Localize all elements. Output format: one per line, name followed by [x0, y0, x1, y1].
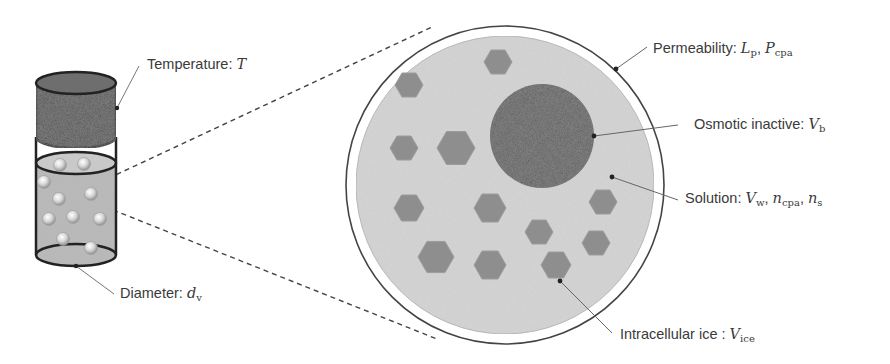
- permeability-label: Permeability: Lp, Pcpa: [653, 41, 793, 58]
- solution-sub-w: w: [756, 197, 765, 208]
- solution-symbol-ns: n: [808, 190, 817, 206]
- solution-sub-cpa: cpa: [782, 197, 800, 208]
- osmotic-inactive-subscript: b: [819, 123, 825, 134]
- intracellular-ice-label-text: Intracellular ice :: [620, 326, 730, 342]
- osmotic-inactive-body: [490, 84, 594, 188]
- solution-sub-s: s: [817, 197, 822, 208]
- permeability-symbol-pcpa: P: [765, 40, 775, 56]
- osmotic-inactive-label-text: Osmotic inactive:: [694, 116, 808, 132]
- cryopreservation-model-diagram: Temperature: T Diameter: dv Permeability…: [0, 0, 890, 364]
- solution-symbol-vw: V: [745, 190, 755, 206]
- cell: [346, 26, 664, 344]
- permeability-sub-cpa: cpa: [775, 47, 793, 58]
- diameter-label-text: Diameter:: [120, 285, 187, 301]
- temperature-symbol: T: [236, 56, 246, 72]
- intracellular-ice-subscript: ice: [740, 333, 755, 344]
- diameter-label: Diameter: dv: [120, 286, 202, 303]
- solution-label-text: Solution:: [685, 190, 745, 206]
- intracellular-ice-label: Intracellular ice : Vice: [620, 327, 755, 344]
- permeability-leader: [616, 47, 647, 69]
- diameter-subscript: v: [196, 292, 202, 303]
- solution-symbol-ncpa: n: [773, 190, 782, 206]
- permeability-label-text: Permeability:: [653, 40, 741, 56]
- permeability-separator: ,: [757, 40, 765, 56]
- solution-label: Solution: Vw, ncpa, ns: [685, 191, 822, 208]
- solution-separator-1: ,: [765, 190, 773, 206]
- intracellular-ice-symbol: V: [730, 326, 740, 342]
- temperature-label: Temperature: T: [147, 57, 246, 72]
- diameter-leader: [76, 266, 114, 294]
- vial-cap: [36, 72, 116, 148]
- vial-liquid: [36, 152, 116, 266]
- temperature-label-text: Temperature:: [147, 56, 236, 72]
- osmotic-inactive-symbol: V: [808, 116, 818, 132]
- diameter-symbol: d: [187, 285, 196, 301]
- temperature-leader: [117, 66, 139, 108]
- solution-separator-2: ,: [800, 190, 808, 206]
- osmotic-inactive-label: Osmotic inactive: Vb: [694, 117, 825, 134]
- vial: [36, 72, 116, 266]
